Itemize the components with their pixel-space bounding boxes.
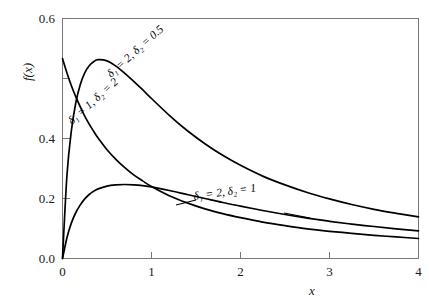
y-tick-label-3: 0.6 bbox=[39, 11, 56, 26]
y-tick-label-1: 0.2 bbox=[39, 191, 55, 206]
x-tick-label-4: 4 bbox=[415, 264, 422, 279]
chart-figure: 0.0 0.2 0.4 0.6 0 1 2 3 4 f(x) x δ₁ = 2,… bbox=[0, 0, 429, 304]
y-axis-title: f(x) bbox=[20, 63, 35, 81]
x-tick-label-1: 1 bbox=[148, 264, 155, 279]
y-tick-label-2: 0.4 bbox=[39, 131, 56, 146]
x-tick-label-0: 0 bbox=[59, 264, 66, 279]
x-tick-label-3: 3 bbox=[326, 264, 333, 279]
y-tick-label-0: 0.0 bbox=[39, 251, 55, 266]
x-axis-title: x bbox=[308, 283, 315, 298]
x-tick-label-2: 2 bbox=[237, 264, 244, 279]
plot-canvas: 0.0 0.2 0.4 0.6 0 1 2 3 4 f(x) x δ₁ = 2,… bbox=[0, 0, 429, 304]
